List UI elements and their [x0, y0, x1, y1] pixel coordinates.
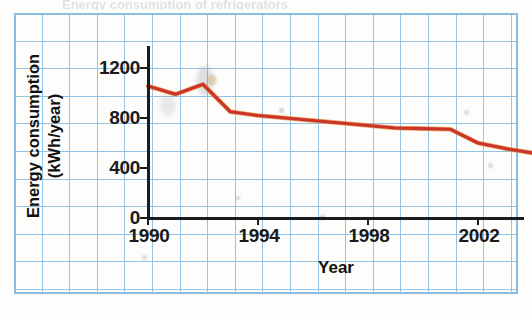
scanned-chart-figure: Energy consumption of refrigerators 1200…: [0, 0, 532, 316]
graph-paper-grid: [14, 13, 518, 294]
cut-off-caption: Energy consumption of refrigerators: [62, 0, 482, 10]
